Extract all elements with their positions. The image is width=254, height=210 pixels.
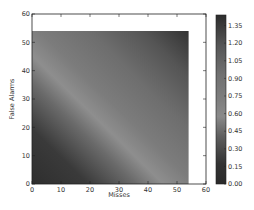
colorbar-tick-label: 0.30: [228, 145, 242, 153]
colorbar-tick-label: 1.35: [228, 22, 242, 30]
x-tick-label: 50: [173, 186, 181, 194]
x-tick-label: 0: [30, 186, 34, 194]
y-axis-label: False Alarms: [8, 78, 16, 120]
y-tick-label: 0: [26, 180, 30, 188]
colorbar-tick-label: 0.60: [228, 110, 242, 118]
y-tick-label: 30: [22, 95, 30, 103]
colorbar-tick-label: 0.00: [228, 180, 242, 188]
y-tick-label: 40: [22, 67, 30, 75]
x-tick-label: 20: [86, 186, 94, 194]
colorbar-tick-label: 0.45: [228, 127, 242, 135]
y-tick-label: 50: [22, 39, 30, 47]
y-tick-label: 10: [22, 152, 30, 160]
colorbar-tick-label: 1.05: [228, 57, 242, 65]
x-tick-label: 10: [57, 186, 65, 194]
y-tick-label: 20: [22, 124, 30, 132]
heatmap-image: [32, 31, 189, 184]
heatmap-figure: 0102030405060 0102030405060 Misses False…: [0, 0, 254, 210]
colorbar-tick-label: 0.75: [228, 92, 242, 100]
colorbar-ticks: 0.000.150.300.450.600.750.901.051.201.35: [224, 22, 242, 188]
colorbar: [216, 15, 226, 184]
x-axis-label: Misses: [108, 191, 130, 199]
x-tick-label: 60: [202, 186, 210, 194]
colorbar-tick-label: 0.90: [228, 75, 242, 83]
colorbar-tick-label: 0.15: [228, 163, 242, 171]
y-tick-label: 60: [22, 10, 30, 18]
colorbar-tick-label: 1.20: [228, 39, 242, 47]
x-tick-label: 40: [144, 186, 152, 194]
